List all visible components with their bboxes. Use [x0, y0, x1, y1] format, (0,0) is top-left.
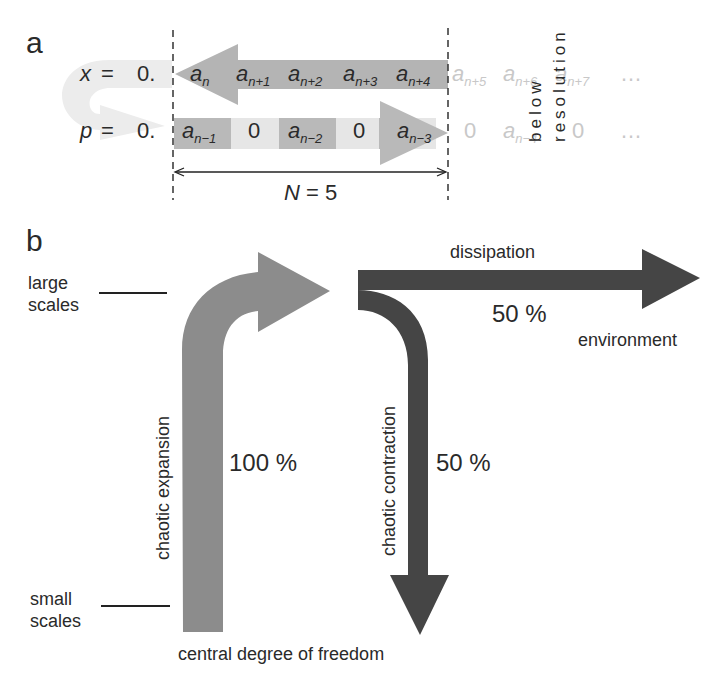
- p-cell-0: an−1: [182, 120, 216, 145]
- x-cell-4: an+4: [396, 63, 430, 88]
- p-cell-4-base: a: [397, 118, 409, 143]
- x-cell-2-base: a: [288, 61, 300, 86]
- expansion-label: chaotic expansion: [154, 416, 172, 560]
- x-cell-0-base: a: [190, 61, 202, 86]
- x-equals: =: [101, 63, 114, 85]
- x-cell-3: an+3: [343, 63, 377, 88]
- window-size-label: N = 5: [284, 182, 337, 204]
- x-symbol: x: [80, 63, 91, 85]
- expansion-percent: 100 %: [229, 451, 297, 475]
- x-faint-cell-0-base: a: [452, 61, 464, 86]
- dissipation-label: dissipation: [450, 243, 535, 261]
- large-scales-line2: scales: [28, 294, 79, 316]
- small-scales-line2: scales: [30, 610, 81, 632]
- below-text: below: [524, 28, 548, 142]
- p-faint-cell-2: 0: [572, 120, 584, 142]
- p-faint-cell-1-base: a: [503, 118, 515, 143]
- p-faint-cell-0: 0: [464, 120, 476, 142]
- large-scales-line1: large: [28, 272, 79, 294]
- x-cell-0: an: [190, 63, 209, 88]
- p-ellipsis: …: [620, 120, 642, 142]
- p-arrow-stem: [379, 118, 381, 149]
- x-cell-3-sub: n+3: [355, 74, 377, 89]
- x-faint-cell-0: an+5: [452, 63, 486, 88]
- x-cell-4-sub: n+4: [408, 74, 430, 89]
- window-size-symbol: N: [284, 180, 300, 205]
- x-cell-1: an+1: [236, 63, 270, 88]
- p-cell-2-base: a: [288, 118, 300, 143]
- x-cell-1-sub: n+1: [248, 74, 270, 89]
- x-cell-4-base: a: [396, 61, 408, 86]
- p-cell-0-sub: n−1: [194, 131, 216, 146]
- x-cell-2: an+2: [288, 63, 322, 88]
- p-lead-zero: 0.: [137, 120, 155, 142]
- x-cell-2-sub: n+2: [300, 74, 322, 89]
- p-cell-4-sub: n−3: [409, 131, 431, 146]
- p-equals: =: [101, 120, 114, 142]
- x-ellipsis: …: [620, 63, 642, 85]
- dissipation-percent: 50 %: [492, 302, 547, 326]
- uturn-arrow-icon: [62, 60, 172, 140]
- resolution-text: resolution: [548, 28, 572, 142]
- below-resolution-label: below resolution: [524, 28, 572, 142]
- p-cell-2-sub: n−2: [300, 131, 322, 146]
- x-cell-3-base: a: [343, 61, 355, 86]
- p-cell-3: 0: [353, 120, 365, 142]
- window-size-eq: =: [306, 180, 319, 205]
- window-size-value: 5: [325, 180, 337, 205]
- contraction-percent: 50 %: [436, 451, 491, 475]
- p-cell-1: 0: [248, 120, 260, 142]
- small-scales-label: small scales: [30, 588, 81, 632]
- contraction-label: chaotic contraction: [380, 406, 398, 556]
- p-cell-2: an−2: [288, 120, 322, 145]
- panel-a-label: a: [26, 28, 43, 58]
- expansion-arrow-icon: [182, 252, 330, 632]
- x-symbol-text: x: [80, 61, 91, 86]
- x-cell-1-base: a: [236, 61, 248, 86]
- p-symbol: p: [80, 120, 92, 142]
- p-cell-0-base: a: [182, 118, 194, 143]
- x-faint-cell-1-base: a: [503, 61, 515, 86]
- x-lead-zero: 0.: [137, 63, 155, 85]
- large-scales-label: large scales: [28, 272, 79, 316]
- environment-label: environment: [578, 331, 677, 349]
- central-degree-label: central degree of freedom: [178, 645, 384, 663]
- p-cell-4: an−3: [397, 120, 431, 145]
- small-scales-line1: small: [30, 588, 81, 610]
- panel-b-label: b: [26, 226, 43, 256]
- x-cell-0-sub: n: [202, 74, 209, 89]
- x-faint-cell-0-sub: n+5: [464, 74, 486, 89]
